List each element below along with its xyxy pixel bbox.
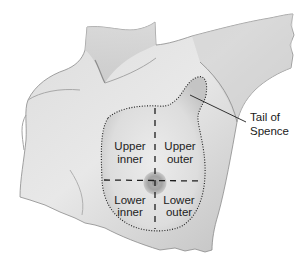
label-lower-outer-line1: Lower <box>163 194 194 206</box>
callout-label-line2: Spence <box>250 125 289 137</box>
label-upper-outer-line2: outer <box>167 153 193 165</box>
label-upper-inner-line1: Upper <box>114 140 145 152</box>
label-upper-inner-line2: inner <box>117 153 143 165</box>
label-lower-inner-line2: inner <box>117 206 143 218</box>
breast-quadrant-diagram: Upper inner Upper outer Lower inner Lowe… <box>0 0 306 272</box>
label-lower-inner-line1: Lower <box>114 194 145 206</box>
label-lower-outer-line2: outer <box>166 206 192 218</box>
callout-label-line1: Tail of <box>250 111 281 123</box>
label-upper-outer-line1: Upper <box>164 140 195 152</box>
diagram-canvas: Upper inner Upper outer Lower inner Lowe… <box>0 0 306 272</box>
